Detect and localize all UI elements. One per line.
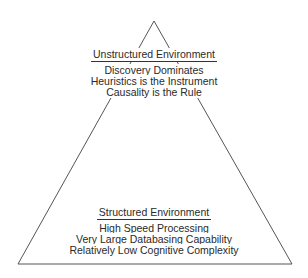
bottom-section-lines: High Speed Processing Very Large Databas… (0, 223, 308, 256)
bottom-section-heading: Structured Environment (97, 206, 211, 220)
top-line-3: Causality is the Rule (0, 87, 308, 98)
bottom-section: Structured Environment High Speed Proces… (0, 202, 308, 256)
top-section: Unstructured Environment Discovery Domin… (0, 44, 308, 98)
top-section-lines: Discovery Dominates Heuristics is the In… (0, 65, 308, 98)
bottom-line-3: Relatively Low Cognitive Complexity (0, 245, 308, 256)
top-section-heading: Unstructured Environment (91, 48, 217, 62)
